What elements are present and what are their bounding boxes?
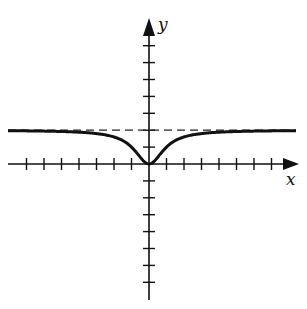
function-graph	[0, 0, 307, 309]
x-axis-label: x	[286, 169, 296, 189]
y-axis-arrow-icon	[143, 18, 155, 36]
y-axis-label: y	[158, 14, 168, 34]
